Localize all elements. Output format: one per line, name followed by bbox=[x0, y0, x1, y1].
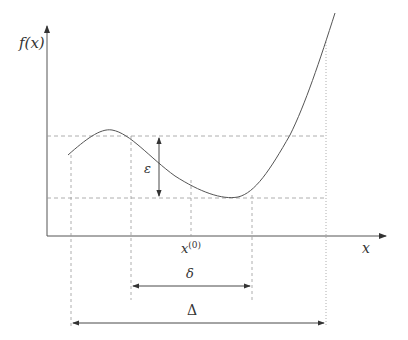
point-label-sup: (0) bbox=[188, 240, 201, 250]
diagram-canvas bbox=[0, 0, 408, 340]
y-axis-label: f(x) bbox=[19, 34, 45, 52]
x-axis-label: x bbox=[362, 240, 370, 256]
epsilon-label: ε bbox=[144, 161, 151, 176]
delta-small-label: δ bbox=[186, 266, 194, 281]
function-curve bbox=[68, 13, 335, 198]
point-label: x(0) bbox=[181, 240, 201, 256]
delta-large-label: Δ bbox=[187, 302, 197, 318]
axes bbox=[47, 26, 386, 236]
vertical-guides bbox=[71, 42, 326, 326]
